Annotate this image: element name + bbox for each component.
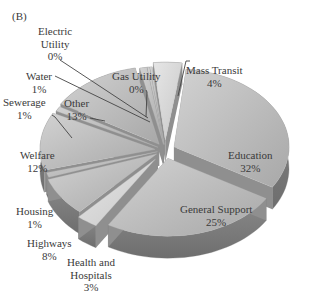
label-welfare: Welfare 12% (20, 149, 55, 174)
label-health-and-hospitals: Health and Hospitals 3% (67, 256, 115, 294)
label-water: Water 1% (26, 70, 52, 95)
label-gas-utility: Gas Utility 0% (112, 70, 161, 95)
label-electric-utility: Electric Utility 0% (38, 25, 72, 63)
label-highways: Highways 8% (27, 237, 72, 262)
pie-chart-figure: (B) Electric Utility 0% Water 1% Gas Uti… (0, 0, 313, 303)
label-other: Other 13% (64, 97, 89, 122)
label-sewerage: Sewerage 1% (3, 96, 46, 121)
label-general-support: General Support 25% (180, 203, 252, 228)
panel-label: (B) (12, 10, 27, 22)
label-education: Education 32% (228, 149, 273, 174)
label-housing: Housing 1% (16, 205, 53, 230)
label-mass-transit: Mass Transit 4% (186, 64, 243, 89)
